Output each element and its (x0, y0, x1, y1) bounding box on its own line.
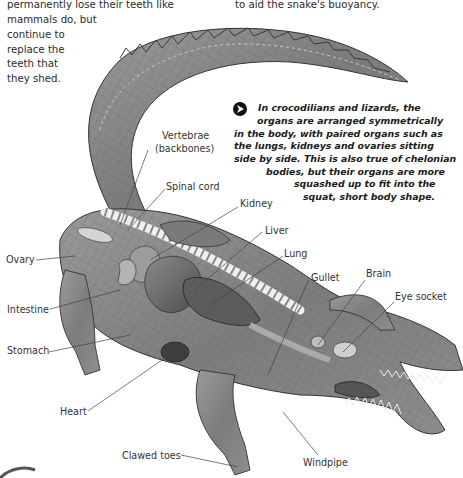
label-spinal-cord: Spinal cord (166, 181, 220, 192)
callout-line: organs are arranged symmetrically (257, 115, 443, 128)
callout-line: In crocodilians and lizards, the (258, 102, 421, 115)
body (60, 209, 463, 434)
text-line: permanently lose their teeth like (7, 0, 174, 13)
callout-line: bodies, but their organs are more (266, 166, 445, 179)
label-vertebrae-line1: Vertebrae (155, 130, 214, 141)
callout-line: side by side. This is also true of chelo… (234, 153, 456, 166)
label-kidney: Kidney (240, 198, 273, 209)
intro-text-right: to aid the snake's buoyancy. (235, 0, 380, 13)
text-line: mammals do, but (7, 13, 97, 28)
text-line: replace the (7, 43, 65, 58)
text-line: they shed. (7, 72, 61, 87)
anatomy-page: permanently lose their teeth like mammal… (0, 0, 463, 478)
label-clawed-toes: Clawed toes (122, 450, 181, 461)
corner-decoration (0, 468, 35, 478)
label-intestine: Intestine (7, 304, 49, 315)
label-lung: Lung (284, 248, 307, 259)
callout-line: squashed up to fit into the (294, 178, 435, 191)
label-gullet: Gullet (311, 272, 340, 283)
label-liver: Liver (265, 225, 289, 236)
callout-line: the lungs, kidneys and ovaries sitting (234, 140, 434, 153)
text-line: teeth that (7, 57, 58, 72)
text-line: continue to (7, 28, 65, 43)
label-stomach: Stomach (7, 345, 49, 356)
arrow-bullet-icon (233, 102, 247, 116)
label-ovary: Ovary (6, 254, 35, 265)
label-brain: Brain (366, 268, 391, 279)
label-heart: Heart (60, 406, 87, 417)
callout-line: squat, short body shape. (303, 191, 435, 204)
callout-line: in the body, with paired organs such as (234, 128, 443, 141)
label-eye-socket: Eye socket (395, 291, 447, 302)
label-vertebrae: Vertebrae (backbones) (155, 130, 214, 154)
label-windpipe: Windpipe (303, 457, 348, 468)
label-vertebrae-line2: (backbones) (155, 143, 214, 154)
